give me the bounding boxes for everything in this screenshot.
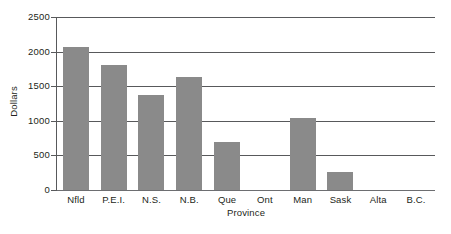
bar <box>138 95 164 190</box>
bar <box>327 172 353 190</box>
y-axis-tick-label: 2500 <box>20 12 50 22</box>
bar-slot <box>322 17 360 190</box>
y-axis-tick-label: 1000 <box>20 116 50 126</box>
x-axis-tick-label: N.S. <box>133 194 171 205</box>
y-axis-tick-mark <box>51 155 57 156</box>
bar <box>214 142 240 190</box>
bar-slot <box>57 17 95 190</box>
x-axis-title: Province <box>57 207 435 218</box>
y-axis-tick-label: 1500 <box>20 81 50 91</box>
bar-slot <box>397 17 435 190</box>
y-axis-tick-label: 0 <box>20 185 50 195</box>
bar <box>63 47 89 190</box>
y-axis-tick-mark <box>51 52 57 53</box>
x-axis-tick-label: Que <box>208 194 246 205</box>
y-axis-tick-label: 2000 <box>20 47 50 57</box>
bar <box>176 77 202 190</box>
plot-area <box>57 17 435 190</box>
bar-slot <box>170 17 208 190</box>
bar-slot <box>133 17 171 190</box>
y-axis-tick-label: 500 <box>20 150 50 160</box>
x-axis-tick-label: Nfld <box>57 194 95 205</box>
bar <box>101 65 127 190</box>
y-axis-tick-mark <box>51 17 57 18</box>
y-axis-tick-labels: 05001000150020002500 <box>20 0 50 234</box>
gridline <box>57 190 435 191</box>
x-axis-tick-label: N.B. <box>170 194 208 205</box>
x-axis-tick-label: B.C. <box>397 194 435 205</box>
x-axis-tick-label: Alta <box>359 194 397 205</box>
y-axis-tick-mark <box>51 86 57 87</box>
x-axis-tick-label: Man <box>284 194 322 205</box>
bar-slot <box>284 17 322 190</box>
bar-slot <box>95 17 133 190</box>
bar-slot <box>359 17 397 190</box>
y-axis-tick-mark <box>51 190 57 191</box>
bar <box>290 118 316 190</box>
bar-slot <box>208 17 246 190</box>
x-axis-tick-label: Sask <box>322 194 360 205</box>
x-axis-tick-label: P.E.I. <box>95 194 133 205</box>
bar-slot <box>246 17 284 190</box>
x-axis-tick-label: Ont <box>246 194 284 205</box>
y-axis-tick-mark <box>51 121 57 122</box>
bar-chart: Dollars 05001000150020002500 NfldP.E.I.N… <box>0 0 451 234</box>
y-axis-title: Dollars <box>8 72 19 132</box>
